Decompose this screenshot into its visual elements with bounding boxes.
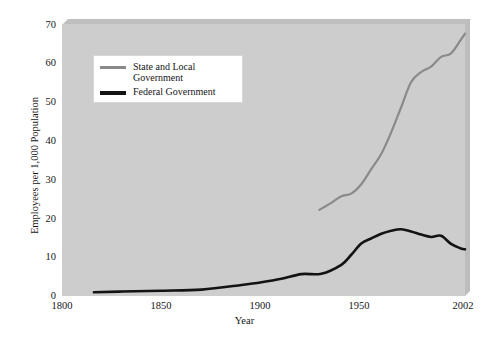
- legend-label-state-line1: State and Local: [133, 61, 195, 72]
- x-tick-1850: 1850: [131, 300, 191, 311]
- series-line-federal: [94, 229, 465, 292]
- x-tick-1950: 1950: [329, 300, 389, 311]
- legend-item-federal: Federal Government: [100, 86, 236, 97]
- x-tick-1800: 1800: [32, 300, 92, 311]
- legend-swatch-state-icon: [100, 66, 126, 69]
- plot-lines: [0, 0, 489, 340]
- legend-label-state-line2: Government: [133, 72, 183, 83]
- legend-item-state-and-local: State and Local Government: [100, 61, 236, 83]
- x-tick-1900: 1900: [230, 300, 290, 311]
- y-tick-70: 70: [22, 19, 56, 30]
- legend-label-state-and-local: State and Local Government: [133, 61, 195, 83]
- chart-figure: 70 60 50 40 30 20 10 0 1800 1850 1900 19…: [0, 0, 489, 340]
- legend-swatch-federal-icon: [100, 91, 126, 95]
- legend-label-federal: Federal Government: [133, 86, 215, 97]
- chart-legend: State and Local Government Federal Gover…: [93, 55, 243, 103]
- x-axis-title: Year: [0, 315, 489, 326]
- series-line-state-and-local: [319, 34, 465, 210]
- x-tick-2002: 2002: [433, 300, 489, 311]
- y-axis-title: Employees per 1,000 Population: [29, 66, 40, 266]
